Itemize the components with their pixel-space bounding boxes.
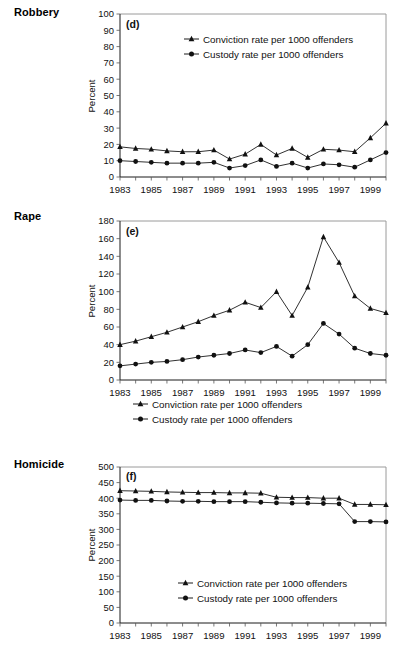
figure-page: Robbery 01020304050607080901001983198519… <box>0 0 402 648</box>
circle-marker <box>183 596 188 601</box>
circle-marker <box>180 357 185 362</box>
circle-marker <box>321 321 326 326</box>
y-axis-title: Percent <box>86 79 97 112</box>
circle-marker <box>118 363 123 368</box>
triangle-marker <box>258 141 264 146</box>
chart-homicide: 0501001502002503003504004505001983198519… <box>0 427 402 648</box>
y-axis-tick-label: 10 <box>104 155 114 166</box>
triangle-marker <box>305 154 311 159</box>
x-axis-tick-label: 1991 <box>235 630 256 641</box>
circle-marker <box>368 157 373 162</box>
triangle-marker <box>305 284 311 289</box>
triangle-marker <box>321 234 327 239</box>
circle-marker <box>368 519 373 524</box>
triangle-marker <box>383 120 389 125</box>
circle-marker <box>352 519 357 524</box>
series-line-custody <box>120 323 386 365</box>
circle-marker <box>384 353 389 358</box>
series-line-conviction <box>120 237 386 345</box>
y-axis-title: Percent <box>86 284 97 317</box>
x-axis-tick-label: 1987 <box>172 630 193 641</box>
circle-marker <box>337 501 342 506</box>
y-axis-tick-label: 50 <box>104 602 114 613</box>
circle-marker <box>337 162 342 167</box>
series-line-custody <box>120 500 386 522</box>
x-axis-tick-label: 1991 <box>235 387 256 398</box>
circle-marker <box>258 500 263 505</box>
x-axis-tick-label: 1999 <box>360 184 381 195</box>
circle-marker <box>227 499 232 504</box>
circle-marker <box>290 161 295 166</box>
series-line-custody <box>120 153 386 168</box>
circle-marker <box>211 160 216 165</box>
series-line-conviction <box>120 491 386 505</box>
x-axis-tick-label: 1995 <box>297 387 318 398</box>
y-axis-tick-label: 140 <box>98 251 114 262</box>
x-axis-tick-label: 1983 <box>109 184 130 195</box>
x-axis-tick-label: 1995 <box>297 184 318 195</box>
y-axis-tick-label: 30 <box>104 123 114 134</box>
y-axis-tick-label: 60 <box>104 74 114 85</box>
circle-marker <box>384 520 389 525</box>
circle-marker <box>290 354 295 359</box>
y-axis-tick-label: 60 <box>104 321 114 332</box>
circle-marker <box>258 157 263 162</box>
x-axis-tick-label: 1997 <box>328 630 349 641</box>
triangle-marker <box>242 299 248 304</box>
x-axis-tick-label: 1993 <box>266 387 287 398</box>
circle-marker <box>180 499 185 504</box>
circle-marker <box>165 359 170 364</box>
legend-label-custody: Custody rate per 1000 offenders <box>197 593 337 604</box>
circle-marker <box>258 350 263 355</box>
triangle-marker <box>117 488 123 493</box>
x-axis-tick-label: 1995 <box>297 630 318 641</box>
circle-marker <box>305 166 310 171</box>
y-axis-tick-label: 100 <box>98 8 114 19</box>
y-axis-tick-label: 90 <box>104 25 114 36</box>
circle-marker <box>352 346 357 351</box>
circle-marker <box>118 498 123 503</box>
panel-robbery: Robbery 01020304050607080901001983198519… <box>0 0 402 205</box>
legend-label-conviction: Conviction rate per 1000 offenders <box>152 399 302 410</box>
circle-marker <box>196 161 201 166</box>
triangle-marker <box>352 293 358 298</box>
y-axis-tick-label: 40 <box>104 106 114 117</box>
circle-marker <box>211 499 216 504</box>
circle-marker <box>180 161 185 166</box>
x-axis-tick-label: 1993 <box>266 184 287 195</box>
x-axis-tick-label: 1987 <box>172 387 193 398</box>
circle-marker <box>196 499 201 504</box>
x-axis-tick-label: 1985 <box>141 387 162 398</box>
y-axis-tick-label: 400 <box>98 493 114 504</box>
circle-marker <box>305 501 310 506</box>
panel-rape: Rape 02040608010012014016018019831985198… <box>0 205 402 427</box>
x-axis-tick-label: 1993 <box>266 630 287 641</box>
circle-marker <box>337 332 342 337</box>
circle-marker <box>211 353 216 358</box>
x-axis-tick-label: 1999 <box>360 387 381 398</box>
x-axis-tick-label: 1989 <box>203 184 224 195</box>
triangle-marker <box>289 145 295 150</box>
circle-marker <box>243 348 248 353</box>
circle-marker <box>118 158 123 163</box>
panel-letter: (e) <box>126 225 139 237</box>
legend-label-conviction: Conviction rate per 1000 offenders <box>197 578 347 589</box>
chart-robbery: 0102030405060708090100198319851987198919… <box>0 0 402 205</box>
triangle-marker <box>321 146 327 151</box>
y-axis-tick-label: 80 <box>104 304 114 315</box>
triangle-marker <box>211 147 217 152</box>
panel-letter: (d) <box>126 18 139 30</box>
x-axis-tick-label: 1999 <box>360 630 381 641</box>
circle-marker <box>368 351 373 356</box>
y-axis-tick-label: 120 <box>98 268 114 279</box>
x-axis-tick-label: 1985 <box>141 630 162 641</box>
y-axis-tick-label: 500 <box>98 461 114 472</box>
panel-letter: (f) <box>126 470 137 482</box>
y-axis-tick-label: 0 <box>109 171 114 182</box>
y-axis-tick-label: 70 <box>104 57 114 68</box>
circle-marker <box>138 417 143 422</box>
circle-marker <box>274 344 279 349</box>
y-axis-tick-label: 50 <box>104 90 114 101</box>
circle-marker <box>227 351 232 356</box>
circle-marker <box>149 498 154 503</box>
